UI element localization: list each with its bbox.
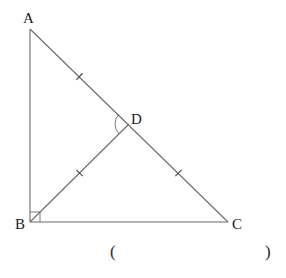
geometry-figure: A B C D ( ) <box>0 0 286 278</box>
label-a: A <box>23 10 34 26</box>
vertex-labels: A B C D <box>15 10 242 232</box>
label-c: C <box>232 216 242 232</box>
answer-blank: ( ) <box>110 242 271 261</box>
label-b: B <box>15 216 25 232</box>
triangle-segments <box>30 29 228 222</box>
angle-arc-d <box>115 114 119 134</box>
answer-close-paren: ) <box>265 242 271 261</box>
label-d: D <box>131 111 142 127</box>
answer-open-paren: ( <box>110 242 116 261</box>
